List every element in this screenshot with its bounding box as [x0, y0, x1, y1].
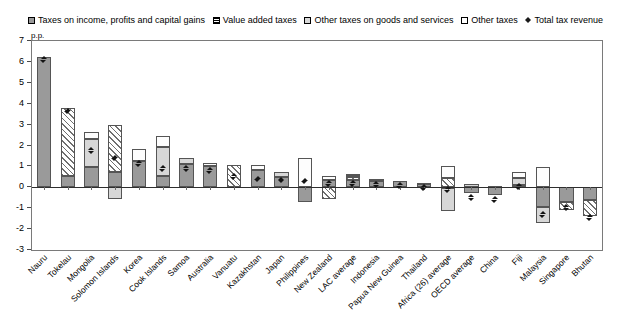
- total-tax-revenue-marker[interactable]: [160, 165, 166, 168]
- bar-group[interactable]: [203, 41, 217, 250]
- legend-item-goods: Other taxes on goods and services: [304, 15, 453, 25]
- legend-label-vat: Value added taxes: [223, 15, 297, 25]
- x-axis-tick: [210, 187, 211, 190]
- bar-group[interactable]: [274, 41, 288, 250]
- y-axis-tick-label: 5: [19, 77, 24, 86]
- bar-segment-other[interactable]: [251, 165, 265, 169]
- total-tax-revenue-marker[interactable]: [183, 165, 189, 168]
- x-axis-tick: [471, 187, 472, 190]
- y-axis-tick-label: 3: [19, 119, 24, 128]
- x-axis-tick: [566, 187, 567, 190]
- total-tax-revenue-marker[interactable]: [350, 180, 356, 183]
- x-axis-tick: [139, 187, 140, 190]
- total-tax-revenue-marker[interactable]: [373, 181, 379, 184]
- y-axis-tick-label: -1: [16, 203, 24, 212]
- y-axis-unit-label: p.p.: [31, 31, 44, 40]
- total-tax-revenue-marker[interactable]: [207, 167, 213, 170]
- total-tax-revenue-marker[interactable]: [445, 186, 451, 189]
- y-axis-tick-label: 2: [19, 140, 24, 149]
- plot-area: [31, 40, 603, 251]
- total-tax-revenue-marker[interactable]: [421, 184, 427, 187]
- y-axis-tick-label: 6: [19, 56, 24, 65]
- x-axis-tick: [258, 187, 259, 190]
- bar-group[interactable]: [37, 41, 51, 250]
- bar-group[interactable]: [441, 41, 455, 250]
- bar-group[interactable]: [512, 41, 526, 250]
- legend-label-goods: Other taxes on goods and services: [314, 15, 453, 25]
- bar-group[interactable]: [227, 41, 241, 250]
- legend-label-income: Taxes on income, profits and capital gai…: [38, 15, 205, 25]
- bar-segment-income[interactable]: [37, 57, 51, 188]
- bar-segment-other[interactable]: [346, 174, 360, 176]
- x-axis-tick: [543, 187, 544, 190]
- bar-group[interactable]: [536, 41, 550, 250]
- bar-group[interactable]: [132, 41, 146, 250]
- total-tax-revenue-marker[interactable]: [492, 196, 498, 199]
- total-tax-revenue-marker[interactable]: [255, 176, 261, 179]
- total-tax-revenue-marker[interactable]: [136, 160, 142, 163]
- square-grey-icon: [304, 17, 311, 24]
- x-axis-labels: NauruTokelauMongoliaSolomon IslandsKorea…: [31, 253, 603, 330]
- bar-group[interactable]: [393, 41, 407, 250]
- total-tax-revenue-marker[interactable]: [112, 155, 118, 158]
- bar-segment-other[interactable]: [536, 167, 550, 187]
- square-hatch-icon: [28, 17, 35, 24]
- bar-segment-vat[interactable]: [61, 108, 75, 176]
- legend-label-total: Total tax revenue: [534, 15, 603, 25]
- bar-segment-income[interactable]: [108, 172, 122, 188]
- total-tax-revenue-marker[interactable]: [302, 178, 308, 181]
- total-tax-revenue-marker[interactable]: [41, 56, 47, 59]
- total-tax-revenue-marker[interactable]: [88, 147, 94, 150]
- bar-group[interactable]: [156, 41, 170, 250]
- bar-group[interactable]: [559, 41, 573, 250]
- total-tax-revenue-marker[interactable]: [397, 182, 403, 185]
- total-tax-revenue-marker[interactable]: [587, 214, 593, 217]
- y-axis-tick-label: 0: [19, 182, 24, 191]
- total-tax-revenue-marker[interactable]: [516, 183, 522, 186]
- y-axis-tick-label: -3: [16, 245, 24, 254]
- legend-label-other: Other taxes: [471, 15, 518, 25]
- x-axis-tick: [353, 187, 354, 190]
- bar-layer: [32, 41, 602, 250]
- bar-group[interactable]: [108, 41, 122, 250]
- total-tax-revenue-marker[interactable]: [278, 177, 284, 180]
- chart-legend: Taxes on income, profits and capital gai…: [28, 12, 603, 28]
- bar-segment-other[interactable]: [84, 132, 98, 139]
- bar-segment-other[interactable]: [441, 166, 455, 177]
- bar-segment-income[interactable]: [84, 167, 98, 187]
- bar-segment-vat[interactable]: [583, 200, 597, 216]
- bar-segment-income[interactable]: [156, 176, 170, 187]
- bar-group[interactable]: [346, 41, 360, 250]
- y-axis-tick-label: 1: [19, 161, 24, 170]
- bar-group[interactable]: [464, 41, 478, 250]
- x-axis-tick: [44, 187, 45, 190]
- bar-group[interactable]: [322, 41, 336, 250]
- bar-segment-vat[interactable]: [108, 125, 122, 172]
- total-tax-revenue-marker[interactable]: [231, 173, 237, 176]
- bar-segment-other[interactable]: [156, 136, 170, 146]
- legend-item-vat: Value added taxes: [213, 15, 297, 25]
- bar-segment-other[interactable]: [512, 172, 526, 178]
- bar-group[interactable]: [298, 41, 312, 250]
- x-axis-tick: [590, 187, 591, 190]
- bar-group[interactable]: [179, 41, 193, 250]
- bar-segment-goods[interactable]: [179, 158, 193, 164]
- total-tax-revenue-marker[interactable]: [540, 211, 546, 214]
- square-white-icon: [461, 17, 468, 24]
- bar-group[interactable]: [369, 41, 383, 250]
- bar-group[interactable]: [488, 41, 502, 250]
- bar-group[interactable]: [251, 41, 265, 250]
- bar-group[interactable]: [61, 41, 75, 250]
- bar-group[interactable]: [417, 41, 431, 250]
- total-tax-revenue-marker[interactable]: [65, 108, 71, 111]
- legend-item-total: Total tax revenue: [525, 15, 603, 25]
- bar-group[interactable]: [84, 41, 98, 250]
- legend-item-other: Other taxes: [461, 15, 518, 25]
- bar-segment-other[interactable]: [203, 163, 217, 166]
- total-tax-revenue-marker[interactable]: [326, 180, 332, 183]
- total-tax-revenue-marker[interactable]: [563, 204, 569, 207]
- bar-segment-income[interactable]: [61, 176, 75, 187]
- total-tax-revenue-marker[interactable]: [468, 194, 474, 197]
- chart-root: Taxes on income, profits and capital gai…: [0, 0, 629, 330]
- x-axis-tick: [115, 187, 116, 190]
